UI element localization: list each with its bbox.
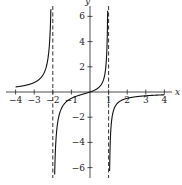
curve-branch (16, 9, 51, 87)
plot-svg: −4−3−2−11234 −6−4−2246 x y (0, 0, 182, 185)
y-tick-label: −6 (72, 163, 86, 173)
curve-branch (110, 95, 165, 171)
y-tick-label: 6 (79, 11, 85, 21)
x-tick-label: 3 (143, 95, 149, 105)
x-tick-label: 2 (124, 95, 130, 105)
x-axis-label: x (175, 87, 180, 97)
y-tick-label: 4 (79, 37, 85, 47)
y-tick-label: 2 (79, 62, 85, 72)
curve-branch (55, 11, 108, 175)
x-tick-label: −4 (9, 95, 23, 105)
y-tick-label: −4 (72, 137, 86, 147)
y-axis-label: y (84, 0, 91, 6)
x-tick-label: −3 (28, 95, 42, 105)
x-tick-label: 4 (162, 95, 168, 105)
y-tick-label: −2 (72, 112, 85, 122)
function-plot: −4−3−2−11234 −6−4−2246 x y (0, 0, 182, 185)
